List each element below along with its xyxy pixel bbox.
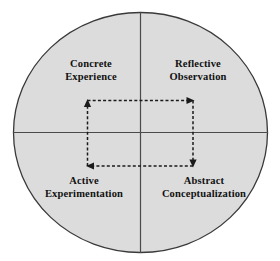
quadrant-label-active-experimentation: Active Experimentation <box>30 174 138 200</box>
quadrant-label-concrete-experience: Concrete Experience <box>48 57 134 83</box>
diagram-canvas <box>0 0 280 261</box>
quadrant-label-line2: Conceptualization <box>144 187 264 200</box>
quadrant-label-line2: Experimentation <box>30 187 138 200</box>
quadrant-label-abstract-conceptualization: Abstract Conceptualization <box>144 174 264 200</box>
quadrant-label-line2: Observation <box>148 70 248 83</box>
quadrant-label-line1: Abstract <box>144 174 264 187</box>
quadrant-label-line1: Reflective <box>148 57 248 70</box>
quadrant-label-reflective-observation: Reflective Observation <box>148 57 248 83</box>
learning-cycle-diagram: Concrete Experience Reflective Observati… <box>0 0 280 261</box>
quadrant-label-line1: Active <box>30 174 138 187</box>
quadrant-label-line1: Concrete <box>48 57 134 70</box>
quadrant-label-line2: Experience <box>48 70 134 83</box>
